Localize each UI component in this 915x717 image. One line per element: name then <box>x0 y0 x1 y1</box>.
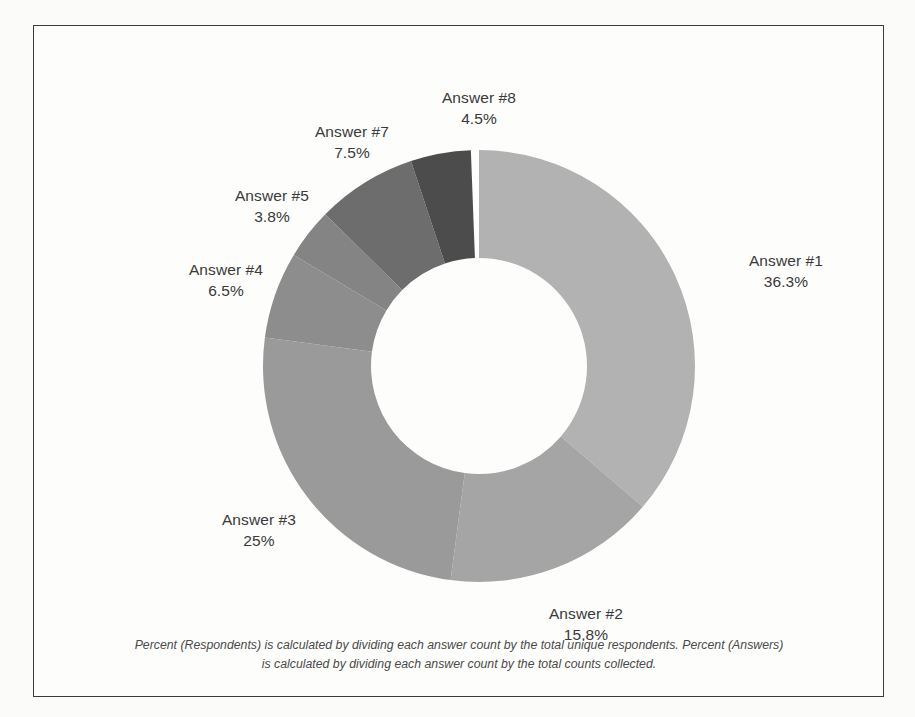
slice-label-name: Answer #4 <box>146 260 306 281</box>
slice-label-value: 7.5% <box>272 143 432 164</box>
chart-frame: Answer #136.3%Answer #215.8%Answer #325%… <box>33 25 884 697</box>
slice-label: Answer #53.8% <box>192 186 352 228</box>
slice-label: Answer #46.5% <box>146 260 306 302</box>
slice-label-value: 4.5% <box>399 109 559 130</box>
slice-label: Answer #325% <box>179 510 339 552</box>
slice-label-name: Answer #3 <box>179 510 339 531</box>
slice-label-value: 6.5% <box>146 281 306 302</box>
donut-slice[interactable] <box>479 150 695 507</box>
slice-label-value: 25% <box>179 531 339 552</box>
chart-footnote: Percent (Respondents) is calculated by d… <box>129 636 789 674</box>
donut-chart: Answer #136.3%Answer #215.8%Answer #325%… <box>34 26 883 696</box>
slice-label-name: Answer #1 <box>706 251 866 272</box>
slice-label-name: Answer #8 <box>399 88 559 109</box>
slice-label: Answer #84.5% <box>399 88 559 130</box>
slice-label-value: 3.8% <box>192 207 352 228</box>
slice-label-name: Answer #5 <box>192 186 352 207</box>
slice-label-name: Answer #2 <box>506 604 666 625</box>
slice-label: Answer #136.3% <box>706 251 866 293</box>
slice-label-value: 36.3% <box>706 272 866 293</box>
